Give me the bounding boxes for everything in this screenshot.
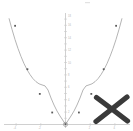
y-tick-label: 16 — [68, 23, 71, 27]
data-point — [103, 68, 105, 70]
data-point — [90, 93, 92, 95]
y-tick-label: 12 — [68, 48, 71, 52]
y-tick-label: 10 — [68, 61, 71, 65]
data-point — [51, 112, 53, 114]
x-tick-label: 4 — [114, 126, 116, 130]
y-tick-label: 6 — [68, 85, 70, 89]
data-point — [78, 112, 80, 114]
x-tick-label: 2 — [89, 126, 91, 130]
data-point — [14, 25, 16, 27]
graph-screenshot: 2 4 6 8 10 12 14 16 18 -4 -2 2 4 — [0, 0, 133, 131]
y-axis-tick-labels: 2 4 6 8 10 12 14 16 18 — [68, 14, 71, 115]
x-tick-label: -4 — [14, 126, 17, 130]
y-tick-label: 4 — [68, 98, 70, 102]
y-tick-label: 18 — [68, 14, 71, 18]
data-point — [39, 93, 41, 95]
parabola-plot: 2 4 6 8 10 12 14 16 18 -4 -2 2 4 — [0, 0, 133, 131]
data-point — [27, 68, 29, 70]
x-tick-label: -2 — [39, 126, 42, 130]
data-point — [65, 123, 67, 125]
x-axis-tick-labels: -4 -2 2 4 — [14, 126, 116, 130]
y-tick-label: 8 — [68, 73, 70, 77]
y-tick-label: 14 — [68, 36, 71, 40]
data-point — [115, 25, 117, 27]
hand-drawn-x-mark — [96, 97, 128, 122]
y-tick-label: 2 — [68, 110, 70, 114]
top-artifact — [85, 2, 90, 3]
